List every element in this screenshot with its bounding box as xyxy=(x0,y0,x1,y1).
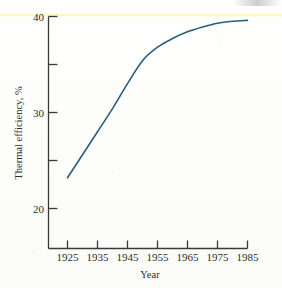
thermal-efficiency-line-chart: 40 30 20 1925 1935 1945 1955 1965 1975 1… xyxy=(0,0,282,288)
x-tick-label-1975: 1975 xyxy=(207,251,230,263)
x-tick-label-1925: 1925 xyxy=(57,251,80,263)
x-tick-label-1945: 1945 xyxy=(117,251,140,263)
y-tick-label-20: 20 xyxy=(33,203,45,215)
x-tick-label-1985: 1985 xyxy=(237,251,260,263)
y-tick-label-40: 40 xyxy=(33,11,45,23)
efficiency-curve xyxy=(68,20,248,177)
y-axis-ticks xyxy=(49,17,58,209)
x-axis-title: Year xyxy=(140,269,160,280)
x-axis-ticks xyxy=(68,241,248,249)
x-tick-label-1965: 1965 xyxy=(177,251,200,263)
y-axis-title: Thermal efficiency, % xyxy=(13,86,24,180)
x-tick-label-1935: 1935 xyxy=(87,251,110,263)
figure-container: 40 30 20 1925 1935 1945 1955 1965 1975 1… xyxy=(0,0,282,288)
y-tick-label-30: 30 xyxy=(33,107,45,119)
x-tick-label-1955: 1955 xyxy=(147,251,170,263)
